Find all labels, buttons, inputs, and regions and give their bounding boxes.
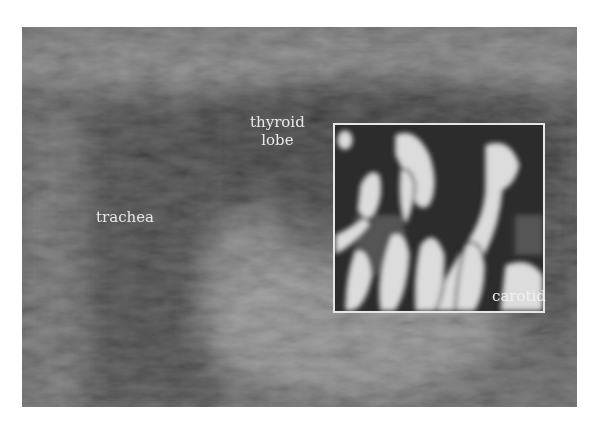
label-thyroid-lobe: thyroid lobe	[250, 113, 305, 149]
label-carotid: carotid	[492, 287, 546, 305]
ultrasound-image: trachea thyroid lobe carotid	[22, 27, 577, 407]
label-thyroid-line1: thyroid	[250, 113, 305, 131]
label-trachea: trachea	[96, 208, 154, 226]
label-thyroid-line2: lobe	[250, 131, 305, 149]
flow-signal	[335, 125, 543, 311]
doppler-roi-box	[333, 123, 545, 313]
